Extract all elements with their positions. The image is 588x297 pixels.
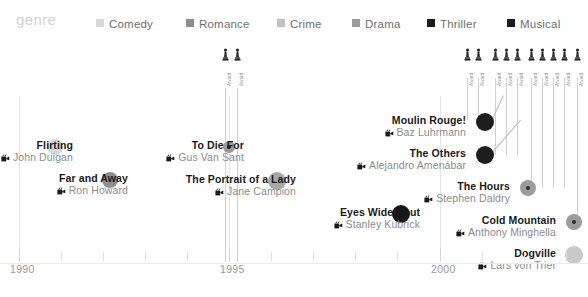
film-title: Dogville [478, 247, 556, 259]
axis-tick-minor [566, 252, 567, 261]
film-director-row: Gus Van Sant [166, 151, 244, 163]
award-stem-line [542, 78, 543, 188]
film-title: Flirting [1, 139, 73, 151]
award-label: Award [519, 73, 524, 86]
film-director-name: Baz Luhrmann [397, 126, 467, 138]
legend-swatch-icon [427, 19, 435, 27]
time-axis-line [0, 263, 588, 264]
legend-item-label: Thriller [440, 18, 477, 30]
award-stem-line [467, 78, 468, 120]
film-director-name: Stephen Daldry [436, 192, 510, 204]
axis-tick-minor [271, 252, 272, 261]
legend-swatch-icon [277, 19, 285, 27]
film-director-row: Stanley Kubrick [334, 218, 420, 230]
axis-tick-major [229, 248, 230, 261]
film-director-name: Alejandro Amenábar [369, 159, 466, 171]
legend-item-musical[interactable]: Musical [507, 14, 560, 28]
year-gridline [19, 96, 20, 262]
film-label[interactable]: Far and AwayRon Howard [57, 172, 128, 196]
film-director-row: Stephen Daldry [424, 192, 510, 204]
film-bubble[interactable] [476, 113, 494, 131]
oscar-statuette-icon [528, 48, 535, 67]
oscar-statuette-icon [539, 48, 546, 67]
film-director-name: Gus Van Sant [178, 151, 244, 163]
award-label: Award [579, 73, 584, 86]
movie-camera-icon [456, 227, 465, 235]
film-label[interactable]: The Portrait of a LadyJane Campion [186, 173, 296, 197]
oscar-statuette-icon [561, 48, 568, 67]
award-label: Award [469, 73, 474, 86]
legend-item-romance[interactable]: Romance [186, 14, 250, 28]
award-stem-line [495, 78, 496, 155]
oscar-statuette-icon [234, 48, 241, 67]
legend-item-comedy[interactable]: Comedy [96, 14, 153, 28]
film-label[interactable]: FlirtingJohn Duigan [1, 139, 73, 163]
oscar-statuette-icon [222, 48, 229, 67]
award-label: Award [533, 73, 538, 86]
award-stem-line [553, 78, 554, 188]
film-bubble[interactable] [565, 246, 583, 264]
film-label[interactable]: The OthersAlejandro Amenábar [357, 147, 466, 171]
legend-item-label: Comedy [109, 18, 153, 30]
legend-swatch-icon [507, 19, 515, 27]
film-director-row: Baz Luhrmann [385, 126, 467, 138]
leader-line [492, 95, 504, 119]
award-label: Award [555, 73, 560, 86]
legend-item-thriller[interactable]: Thriller [427, 14, 477, 28]
movie-camera-icon [1, 152, 10, 160]
award-label: Award [566, 73, 571, 86]
film-bubble[interactable] [476, 146, 494, 164]
axis-tick-minor [313, 252, 314, 261]
film-label[interactable]: Cold MountainAnthony Minghella [456, 214, 556, 238]
movie-camera-icon [334, 219, 343, 227]
axis-tick-minor [145, 252, 146, 261]
movie-camera-icon [385, 127, 394, 135]
legend-item-drama[interactable]: Drama [352, 14, 401, 28]
axis-tick-minor [61, 252, 62, 261]
axis-tick-minor [103, 252, 104, 261]
award-stem-line [506, 78, 507, 155]
award-label: Award [508, 73, 513, 86]
legend-swatch-icon [96, 19, 104, 27]
movie-camera-icon [357, 160, 366, 168]
film-director-row: Jane Campion [186, 185, 296, 197]
axis-tick-major [19, 248, 20, 261]
film-label[interactable]: To Die ForGus Van Sant [166, 139, 244, 163]
oscar-statuette-icon [464, 48, 471, 67]
film-label[interactable]: DogvilleLars von Trier [478, 247, 556, 271]
award-label: Award [227, 73, 232, 86]
film-label[interactable]: Eyes Wide ShutStanley Kubrick [334, 206, 420, 230]
axis-tick-minor [397, 252, 398, 261]
movie-camera-icon [57, 185, 66, 193]
movie-camera-icon [215, 186, 224, 194]
film-title: The Hours [424, 180, 510, 192]
film-director-name: John Duigan [13, 151, 73, 163]
film-director-name: Anthony Minghella [468, 226, 556, 238]
film-label[interactable]: The HoursStephen Daldry [424, 180, 510, 204]
award-stem-line [517, 78, 518, 155]
film-title: The Others [357, 147, 466, 159]
movie-camera-icon [166, 152, 175, 160]
film-bubble[interactable] [566, 214, 582, 230]
award-label: Award [480, 73, 485, 86]
award-stem-line [564, 78, 565, 188]
film-director-name: Ron Howard [69, 184, 128, 196]
legend-item-crime[interactable]: Crime [277, 14, 322, 28]
award-label: Award [239, 73, 244, 86]
timeline-visualization: genre ComedyRomanceCrimeDramaThrillerMus… [0, 0, 588, 297]
axis-tick-minor [524, 252, 525, 261]
award-label: Award [544, 73, 549, 86]
oscar-statuette-icon [574, 48, 581, 67]
film-title: Far and Away [57, 172, 128, 184]
axis-year-label: 1990 [10, 263, 35, 275]
movie-camera-icon [478, 260, 487, 268]
legend-swatch-icon [352, 19, 360, 27]
bubble-center-dot [526, 186, 530, 190]
legend-item-label: Romance [199, 18, 250, 30]
film-title: To Die For [166, 139, 244, 151]
film-label[interactable]: Moulin Rouge!Baz Luhrmann [385, 114, 467, 138]
oscar-statuette-icon [475, 48, 482, 67]
film-director-row: Alejandro Amenábar [357, 159, 466, 171]
genre-legend: genre ComedyRomanceCrimeDramaThrillerMus… [0, 0, 588, 34]
film-bubble[interactable] [520, 180, 536, 196]
